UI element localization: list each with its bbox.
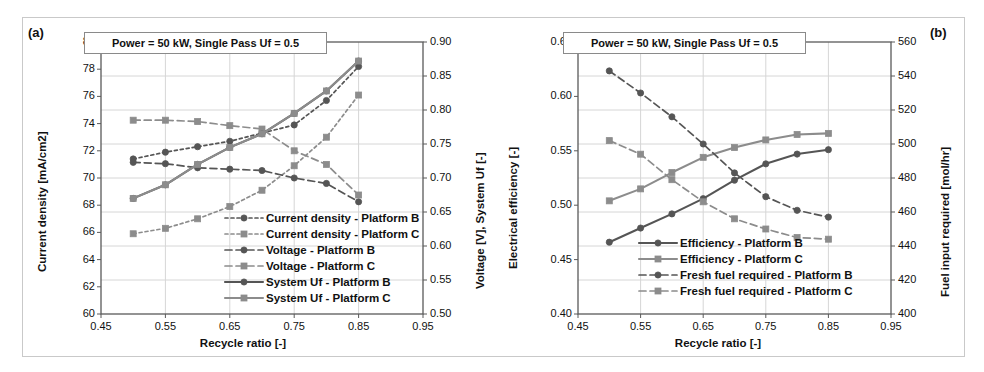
legend-key-solid-square-icon bbox=[636, 251, 680, 267]
legend-label: Efficiency - Platform B bbox=[680, 235, 803, 251]
ytick-label-right: 400 bbox=[898, 307, 938, 319]
legend-key-dotted-square-icon bbox=[222, 226, 266, 242]
ytick-label-right: 0.80 bbox=[430, 103, 470, 115]
ytick-label-left: 0.45 bbox=[532, 253, 572, 265]
ytick-label-right: 0.90 bbox=[430, 35, 470, 47]
xtick-label: 0.85 bbox=[335, 320, 383, 332]
xtick-label: 0.55 bbox=[617, 320, 665, 332]
legend-label: Fresh fuel required - Platform B bbox=[680, 267, 853, 283]
ytick-label-left: 78 bbox=[55, 62, 95, 74]
panel-a: (a) Current density [mA/cm2] Voltage [V]… bbox=[22, 17, 493, 355]
series-0 bbox=[130, 63, 362, 162]
legend-key-dashed-circle-icon bbox=[222, 242, 266, 258]
ytick-label-right: 480 bbox=[898, 171, 938, 183]
ytick-label-left: 70 bbox=[55, 171, 95, 183]
legend-item[interactable]: Efficiency - Platform C bbox=[636, 251, 853, 267]
xtick-label: 0.65 bbox=[206, 320, 254, 332]
ytick-label-left: 0.40 bbox=[532, 307, 572, 319]
legend-label: Fresh fuel required - Platform C bbox=[680, 283, 853, 299]
ytick-label-left: 0.55 bbox=[532, 144, 572, 156]
legend-key-dashed-circle-icon bbox=[636, 267, 680, 283]
legend-label: Efficiency - Platform C bbox=[680, 251, 803, 267]
legend-key-dotted-circle-icon bbox=[222, 210, 266, 226]
xtick-label: 0.65 bbox=[679, 320, 727, 332]
ytick-label-right: 540 bbox=[898, 69, 938, 81]
panel-a-annotation: Power = 50 kW, Single Pass Uf = 0.5 bbox=[84, 32, 327, 54]
ytick-label-right: 0.75 bbox=[430, 137, 470, 149]
ytick-label-left: 76 bbox=[55, 89, 95, 101]
ytick-label-left: 68 bbox=[55, 198, 95, 210]
legend-label: Voltage - Platform C bbox=[266, 258, 375, 274]
panel-b-plot bbox=[493, 17, 963, 355]
ytick-label-right: 520 bbox=[898, 103, 938, 115]
legend-item[interactable]: System Uf - Platform B bbox=[222, 274, 419, 290]
series-1 bbox=[606, 130, 831, 203]
xtick-label: 0.55 bbox=[141, 320, 189, 332]
legend-label: Current density - Platform B bbox=[266, 210, 419, 226]
legend-key-solid-circle-icon bbox=[222, 274, 266, 290]
xtick-label: 0.75 bbox=[742, 320, 790, 332]
xtick-label: 0.45 bbox=[554, 320, 602, 332]
ytick-label-right: 440 bbox=[898, 239, 938, 251]
ytick-label-left: 60 bbox=[55, 307, 95, 319]
ytick-label-right: 0.65 bbox=[430, 205, 470, 217]
xtick-label: 0.95 bbox=[399, 320, 447, 332]
ytick-label-left: 66 bbox=[55, 225, 95, 237]
ytick-label-right: 0.85 bbox=[430, 69, 470, 81]
ytick-label-right: 460 bbox=[898, 205, 938, 217]
ytick-label-left: 72 bbox=[55, 144, 95, 156]
ytick-label-left: 64 bbox=[55, 253, 95, 265]
figure-container: (a) Current density [mA/cm2] Voltage [V]… bbox=[0, 0, 984, 372]
ytick-label-right: 500 bbox=[898, 137, 938, 149]
legend-key-dashed-square-icon bbox=[222, 258, 266, 274]
xtick-label: 0.85 bbox=[804, 320, 852, 332]
ytick-label-right: 0.60 bbox=[430, 239, 470, 251]
ytick-label-right: 0.70 bbox=[430, 171, 470, 183]
panel-b-annotation: Power = 50 kW, Single Pass Uf = 0.5 bbox=[563, 32, 806, 54]
legend-label: Voltage - Platform B bbox=[266, 242, 375, 258]
legend-item[interactable]: Current density - Platform C bbox=[222, 226, 419, 242]
panel-b-legend: Efficiency - Platform BEfficiency - Plat… bbox=[636, 235, 853, 299]
ytick-label-right: 420 bbox=[898, 273, 938, 285]
xtick-label: 0.95 bbox=[867, 320, 915, 332]
legend-item[interactable]: Voltage - Platform B bbox=[222, 242, 419, 258]
ytick-label-left: 74 bbox=[55, 117, 95, 129]
legend-label: System Uf - Platform B bbox=[266, 274, 391, 290]
ytick-label-left: 0.50 bbox=[532, 198, 572, 210]
panel-b: (b) Electrical efficiency [-] Fuel input… bbox=[493, 17, 963, 355]
series-4 bbox=[130, 58, 362, 202]
panel-a-legend: Current density - Platform BCurrent dens… bbox=[222, 210, 419, 306]
legend-label: System Uf - Platform C bbox=[266, 290, 391, 306]
series-0 bbox=[606, 147, 831, 246]
legend-item[interactable]: Fresh fuel required - Platform C bbox=[636, 283, 853, 299]
xtick-label: 0.75 bbox=[270, 320, 318, 332]
legend-item[interactable]: Current density - Platform B bbox=[222, 210, 419, 226]
legend-item[interactable]: System Uf - Platform C bbox=[222, 290, 419, 306]
legend-label: Current density - Platform C bbox=[266, 226, 419, 242]
legend-item[interactable]: Fresh fuel required - Platform B bbox=[636, 267, 853, 283]
ytick-label-left: 0.60 bbox=[532, 89, 572, 101]
legend-item[interactable]: Voltage - Platform C bbox=[222, 258, 419, 274]
legend-key-dashed-square-icon bbox=[636, 283, 680, 299]
ytick-label-right: 560 bbox=[898, 35, 938, 47]
legend-key-solid-circle-icon bbox=[636, 235, 680, 251]
legend-item[interactable]: Efficiency - Platform B bbox=[636, 235, 853, 251]
ytick-label-right: 0.55 bbox=[430, 273, 470, 285]
legend-key-solid-square-icon bbox=[222, 290, 266, 306]
xtick-label: 0.45 bbox=[77, 320, 125, 332]
ytick-label-right: 0.50 bbox=[430, 307, 470, 319]
ytick-label-left: 62 bbox=[55, 280, 95, 292]
